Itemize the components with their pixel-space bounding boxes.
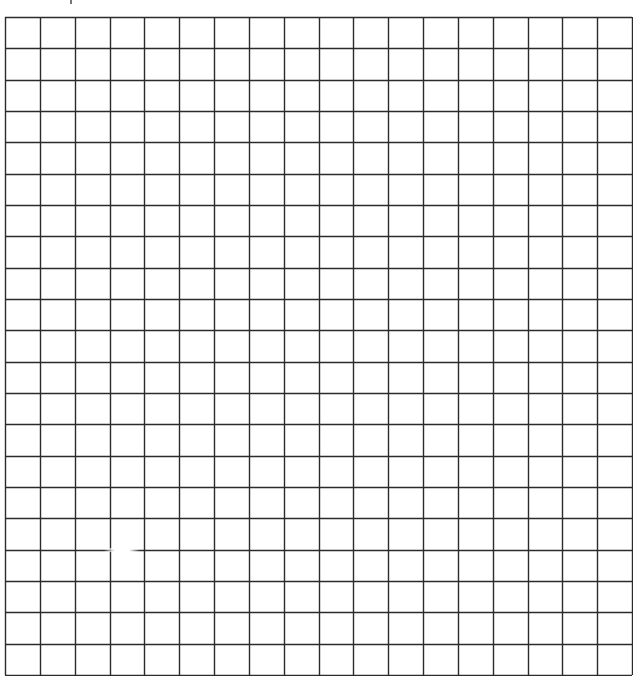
grid-paper-page <box>0 0 638 684</box>
line-gap-artifact <box>104 548 140 552</box>
stray-mark <box>70 0 72 4</box>
square-grid <box>4 16 631 674</box>
grid-lines <box>4 16 633 676</box>
